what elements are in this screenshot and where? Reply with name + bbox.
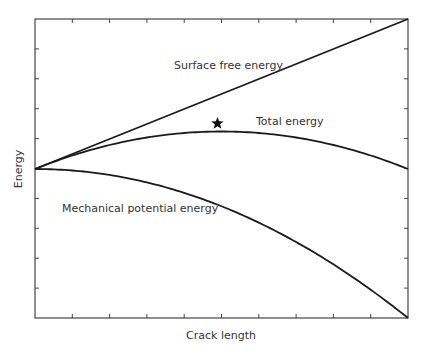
x-axis-label: Crack length <box>186 329 256 342</box>
energy-crack-length-chart: Surface free energy Total energy Mechani… <box>0 0 425 354</box>
y-axis-label: Energy <box>12 149 25 188</box>
star-marker-icon <box>211 117 223 129</box>
mechanical-potential-energy-curve <box>35 169 408 318</box>
total-energy-curve <box>35 132 408 170</box>
mechanical-potential-energy-label: Mechanical potential energy <box>62 202 219 215</box>
total-energy-label: Total energy <box>255 115 324 128</box>
surface-free-energy-label: Surface free energy <box>174 59 283 72</box>
surface-free-energy-curve <box>35 19 408 169</box>
